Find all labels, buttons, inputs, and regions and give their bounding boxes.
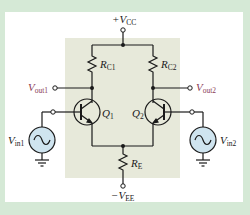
vee-label: −VEE [111,189,135,203]
vin1-label: Vin1 [8,134,25,148]
vcc-label: +VCC [112,13,136,27]
junction-dot [90,86,94,90]
differential-amplifier-circuit: +VCC RC1 RC2 Vout1 Vout2 Q1 Q2 Vin1 Vin2… [0,0,250,215]
vee-terminal [121,184,125,188]
vout1-terminal [53,86,57,90]
vin1-terminal [51,110,55,114]
vout2-terminal [188,86,192,90]
junction-dot [121,144,125,148]
vout2-label: Vout2 [196,81,216,95]
junction-dot [121,43,125,47]
vcc-terminal [121,28,125,32]
junction-dot [151,86,155,90]
vin2-label: Vin2 [220,134,237,148]
vout1-label: Vout1 [28,81,48,95]
vin2-terminal [190,110,194,114]
